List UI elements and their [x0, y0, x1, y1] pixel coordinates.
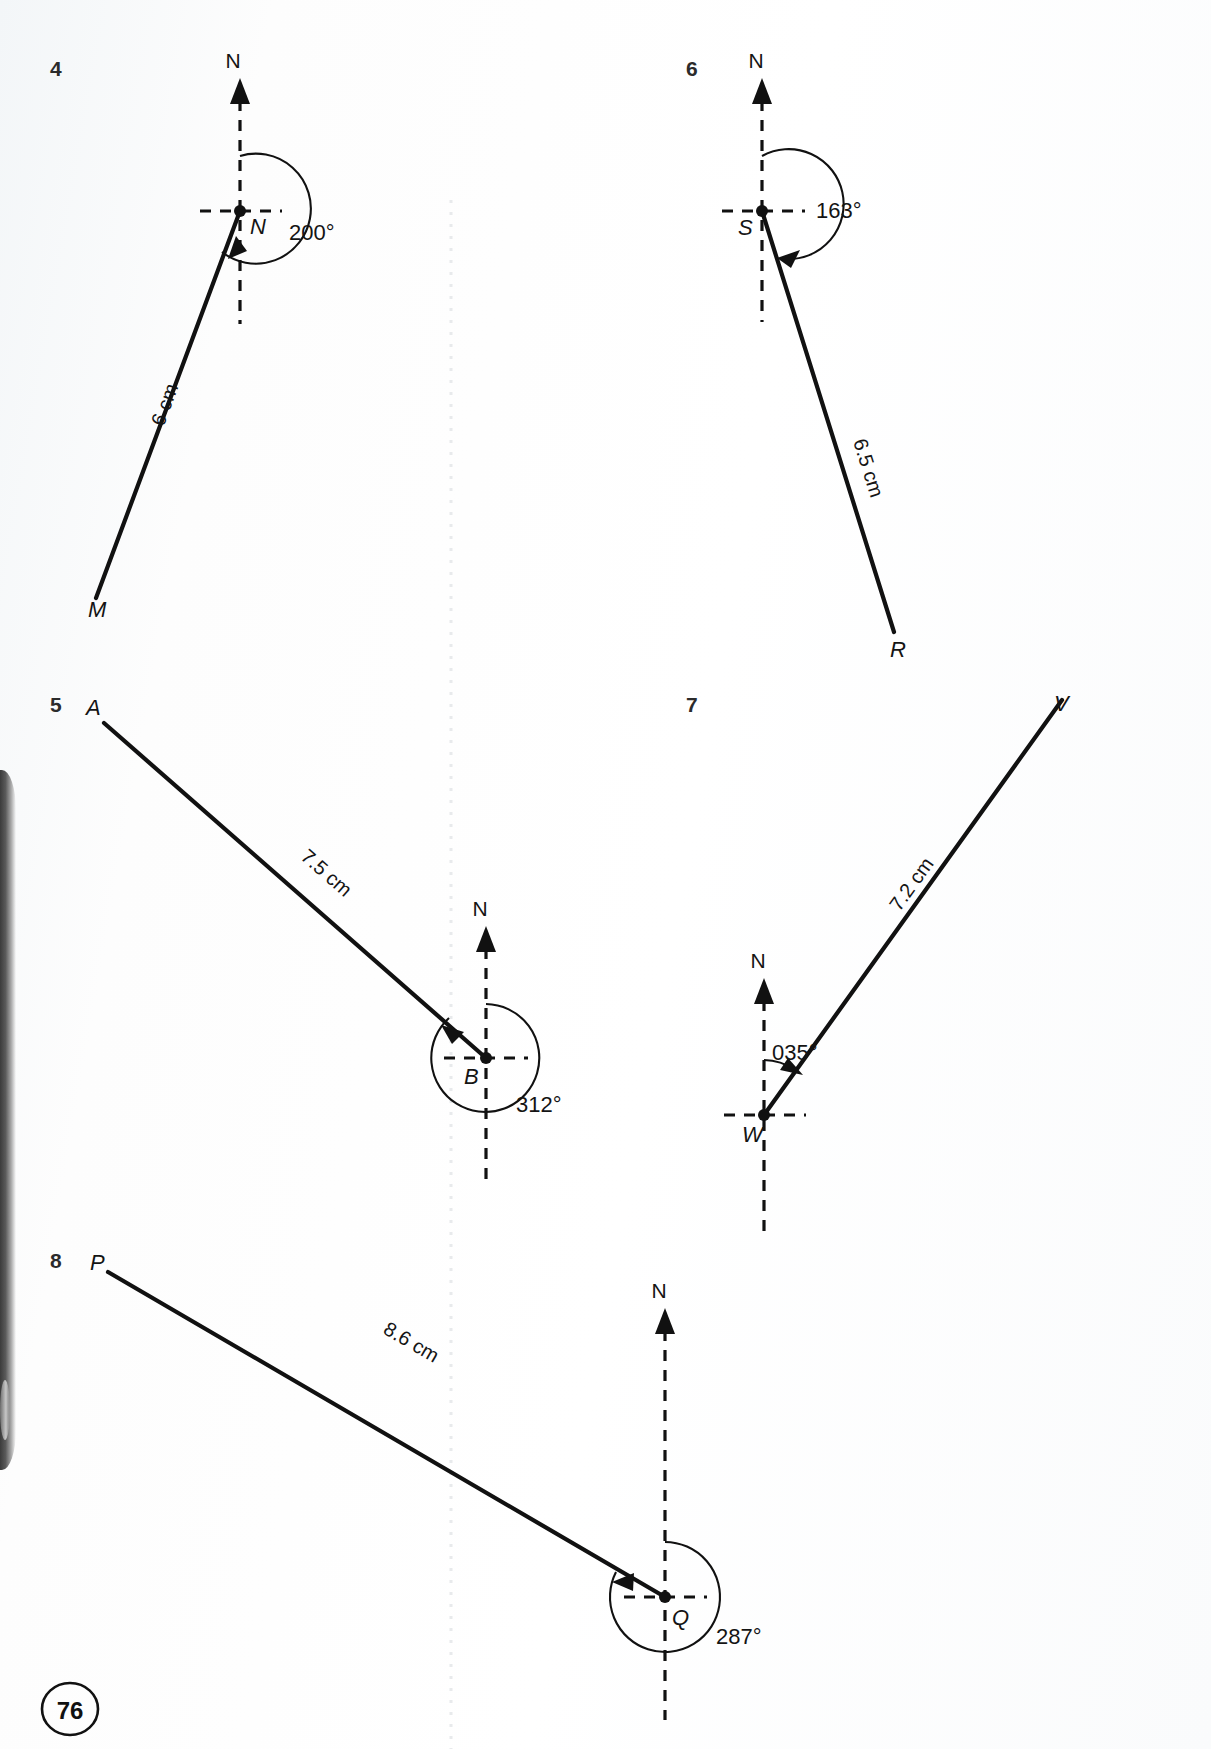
- problem-4-vertex-label: N: [250, 214, 266, 239]
- problem-6-length-label: 6.5 cm: [849, 436, 888, 500]
- problem-7-group: 7 N W 035° 7.2 cm V: [686, 691, 1071, 1232]
- page-canvas: 4 N N 200° 6 cm M 6 N: [0, 0, 1211, 1749]
- problem-5-endpoint-label: A: [84, 695, 101, 720]
- problem-5-north-label: N: [472, 897, 487, 920]
- problem-7-vertex-dot: [758, 1109, 770, 1121]
- problem-7-north-arrowhead: [754, 978, 774, 1004]
- problem-6-north-arrowhead: [752, 78, 772, 104]
- problem-6-bearing-label: 163°: [816, 198, 862, 223]
- problem-4-bearing-label: 200°: [289, 220, 335, 245]
- problem-5-group: 5 A N B 312° 7.5 cm: [50, 693, 562, 1180]
- problem-4-number: 4: [50, 57, 62, 80]
- problem-8-bearing-label: 287°: [716, 1624, 762, 1649]
- problem-6-endpoint-label: R: [890, 637, 906, 662]
- problem-4-endpoint-label: M: [88, 597, 107, 622]
- problem-5-bearing-line: [104, 723, 486, 1058]
- problem-8-group: 8 P N Q 287° 8.6 cm: [50, 1249, 762, 1720]
- problem-4-north-arrowhead: [230, 78, 250, 104]
- problem-8-bearing-line: [108, 1272, 665, 1597]
- problem-7-vertex-label: W: [742, 1122, 765, 1147]
- problem-8-north-arrowhead: [655, 1308, 675, 1334]
- problem-7-bearing-label: 035°: [772, 1040, 818, 1065]
- problem-5-vertex-label: B: [464, 1064, 479, 1089]
- problem-6-number: 6: [686, 57, 698, 80]
- problem-4-length-label: 6 cm: [147, 380, 183, 428]
- problem-6-north-label: N: [748, 49, 763, 72]
- problem-6-group: 6 N S 163° 6.5 cm R: [686, 49, 906, 662]
- page-number: 76: [57, 1697, 84, 1724]
- problem-5-length-label: 7.5 cm: [297, 845, 357, 901]
- page-number-group: 76: [42, 1683, 98, 1735]
- problem-8-endpoint-label: P: [90, 1250, 105, 1275]
- problem-8-vertex-dot: [659, 1591, 671, 1603]
- problem-5-vertex-dot: [480, 1052, 492, 1064]
- problem-5-number: 5: [50, 693, 62, 716]
- problem-7-number: 7: [686, 693, 698, 716]
- bearings-diagram-sheet: 4 N N 200° 6 cm M 6 N: [0, 0, 1211, 1749]
- problem-5-north-arrowhead: [476, 926, 496, 952]
- problem-8-length-label: 8.6 cm: [380, 1317, 443, 1366]
- problem-8-north-label: N: [651, 1279, 666, 1302]
- problem-6-vertex-label: S: [738, 215, 753, 240]
- problem-4-north-label: N: [225, 49, 240, 72]
- problem-8-number: 8: [50, 1249, 62, 1272]
- problem-6-vertex-dot: [756, 205, 768, 217]
- problem-4-vertex-dot: [234, 205, 246, 217]
- problem-6-bearing-line: [762, 211, 894, 632]
- problem-4-group: 4 N N 200° 6 cm M: [50, 49, 335, 622]
- problem-8-vertex-label: Q: [672, 1605, 689, 1630]
- problem-5-bearing-label: 312°: [516, 1092, 562, 1117]
- problem-7-north-label: N: [750, 949, 765, 972]
- problem-7-endpoint-label: V: [1054, 691, 1071, 716]
